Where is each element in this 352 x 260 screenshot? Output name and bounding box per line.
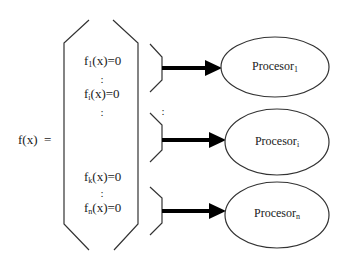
arrow-1	[162, 60, 222, 76]
eq-rest: (x)=0	[91, 86, 120, 101]
equation-f1: f1(x)=0	[84, 54, 121, 72]
proc-base: Procesor	[255, 134, 297, 148]
eq-rest: (x)=0	[92, 200, 121, 215]
processor-label-n: Procesorn	[232, 206, 322, 221]
ellipsis-3: :	[97, 188, 107, 199]
arrow-3	[162, 203, 226, 219]
ellipsis-1: :	[97, 74, 107, 85]
equation-fi: fi(x)=0	[84, 87, 120, 105]
proc-sub: 1	[294, 65, 298, 74]
proc-sub: i	[297, 140, 299, 149]
proc-sub: n	[296, 212, 300, 221]
eq-rest: (x)=0	[92, 169, 121, 184]
processor-label-1: Procesor1	[230, 59, 320, 74]
group-bracket-2	[150, 113, 162, 162]
proc-base: Procesor	[254, 206, 296, 220]
proc-base: Procesor	[252, 59, 294, 73]
equation-fn: fn(x)=0	[84, 201, 121, 219]
processor-label-i: Procesori	[232, 134, 322, 149]
ellipsis-side: :	[158, 106, 168, 117]
lhs-label: f(x) =	[18, 133, 51, 147]
arrow-2	[162, 132, 226, 148]
group-bracket-3	[150, 187, 162, 235]
group-bracket-1	[150, 44, 162, 92]
diagram-canvas	[0, 0, 352, 260]
ellipsis-2: :	[97, 107, 107, 118]
equation-fk: fk(x)=0	[84, 170, 121, 188]
eq-rest: (x)=0	[92, 53, 121, 68]
